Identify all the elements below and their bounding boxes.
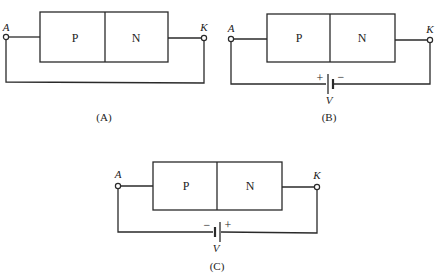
diagram-a: P N A K (A) [2, 12, 209, 124]
p-region-label: P [183, 179, 190, 193]
voltage-label: V [326, 94, 334, 106]
battery-negative-sign: − [338, 70, 345, 84]
pn-junction-block [267, 14, 395, 62]
anode-label: A [114, 168, 122, 180]
anode-label: A [2, 21, 10, 33]
cathode-label: K [425, 23, 434, 35]
pn-junction-block [40, 12, 168, 62]
battery-positive-sign: + [225, 218, 232, 232]
cathode-terminal [427, 37, 432, 42]
p-region-label: P [296, 31, 303, 45]
anode-terminal [115, 183, 120, 188]
caption-c: (C) [210, 260, 225, 273]
cathode-label: K [312, 169, 321, 181]
cathode-terminal [314, 184, 319, 189]
caption-a: (A) [96, 111, 112, 124]
diagram-c: P N A K − + V (C) [114, 162, 322, 273]
caption-b: (B) [322, 111, 337, 124]
diagram-b: P N A K + − V (B) [227, 14, 435, 124]
battery-negative-sign: − [204, 218, 211, 232]
pn-junction-figure: P N A K (A) P N A K + − V (B) [0, 0, 439, 279]
cathode-terminal [201, 35, 206, 40]
voltage-label: V [213, 242, 221, 254]
anode-terminal [3, 34, 8, 39]
anode-label: A [227, 22, 235, 34]
n-region-label: N [246, 179, 255, 193]
n-region-label: N [358, 31, 367, 45]
anode-terminal [228, 36, 233, 41]
battery-positive-sign: + [317, 71, 324, 85]
p-region-label: P [72, 31, 79, 45]
n-region-label: N [132, 31, 141, 45]
cathode-label: K [199, 21, 208, 33]
